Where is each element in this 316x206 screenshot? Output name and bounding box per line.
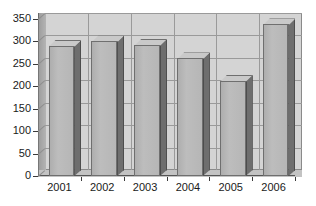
x-axis-tick-mark xyxy=(252,177,253,181)
bar-chart: 050100150200250300350 200120022003200420… xyxy=(0,0,316,206)
y-axis-tick-label: 300 xyxy=(0,35,31,46)
y-axis-tick-label: 250 xyxy=(0,58,31,69)
gridline-vertical xyxy=(174,13,175,170)
x-axis-tick-mark xyxy=(295,177,296,181)
bar-side-face xyxy=(203,52,210,176)
y-axis-tick-label: 200 xyxy=(0,80,31,91)
x-axis-tick-label: 2005 xyxy=(209,182,253,193)
y-axis-tick-mark xyxy=(33,176,38,177)
x-axis-tick-label: 2004 xyxy=(166,182,210,193)
y-axis-tick-mark xyxy=(33,131,38,132)
y-axis-tick-label: 0 xyxy=(0,170,31,181)
y-axis-tick-mark xyxy=(33,86,38,87)
bar-side-face xyxy=(74,40,81,176)
bar-side-face xyxy=(117,35,124,176)
x-axis-tick-mark xyxy=(167,177,168,181)
x-axis-tick-label: 2001 xyxy=(37,182,81,193)
bar-side-face xyxy=(160,39,167,176)
gridline-vertical xyxy=(88,13,89,170)
y-axis-tick-mark xyxy=(33,19,38,20)
bar-front-face xyxy=(49,46,75,176)
y-axis-tick-mark xyxy=(33,41,38,42)
y-axis-tick-label: 50 xyxy=(0,148,31,159)
bar-front-face xyxy=(220,81,246,176)
bar-front-face xyxy=(177,58,203,176)
gridline-vertical xyxy=(216,13,217,170)
bar-side-face xyxy=(246,75,253,176)
x-axis-tick-mark xyxy=(124,177,125,181)
y-axis-tick-mark xyxy=(33,154,38,155)
y-axis-tick-mark xyxy=(33,109,38,110)
gridline-vertical xyxy=(131,13,132,170)
bar-front-face xyxy=(91,41,117,176)
bar-front-face xyxy=(134,45,160,176)
x-axis-tick-label: 2002 xyxy=(80,182,124,193)
x-axis-tick-mark xyxy=(209,177,210,181)
y-axis-tick-label: 100 xyxy=(0,125,31,136)
y-axis-tick-mark xyxy=(33,64,38,65)
bar-front-face xyxy=(263,24,289,176)
gridline-vertical xyxy=(259,13,260,170)
x-axis-tick-label: 2003 xyxy=(123,182,167,193)
plot-area: 050100150200250300350 200120022003200420… xyxy=(0,0,316,206)
bar-side-face xyxy=(288,18,295,176)
x-axis-tick-mark xyxy=(81,177,82,181)
y-axis-tick-label: 350 xyxy=(0,13,31,24)
y-axis-tick-label: 150 xyxy=(0,103,31,114)
x-axis-tick-label: 2006 xyxy=(252,182,296,193)
